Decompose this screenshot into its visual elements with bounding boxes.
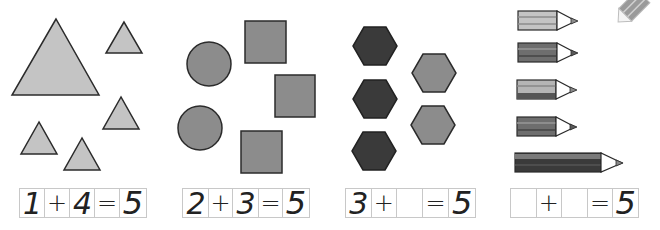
circle-shape xyxy=(187,42,231,86)
large-triangle xyxy=(12,19,99,95)
small-triangle xyxy=(21,122,57,154)
short-pencil xyxy=(517,117,577,136)
plus-cell: + xyxy=(537,189,563,217)
short-pencil xyxy=(518,11,578,30)
addend-b-cell[interactable]: 4 xyxy=(70,189,95,217)
result-cell: 5 xyxy=(449,189,475,217)
result-cell: 5 xyxy=(613,189,638,217)
pencils-panel: + = 5 xyxy=(490,0,660,230)
addend-b-cell[interactable]: 3 xyxy=(233,189,259,217)
small-triangle xyxy=(64,138,100,170)
equals-cell: = xyxy=(95,189,120,217)
circles-squares-panel: 2 + 3 = 5 xyxy=(170,0,330,230)
result-cell: 5 xyxy=(120,189,146,217)
addend-a-cell[interactable]: 1 xyxy=(20,189,45,217)
addend-a-cell[interactable]: 2 xyxy=(183,189,209,217)
square-shape xyxy=(241,131,282,173)
equation-row: + = 5 xyxy=(510,188,639,218)
equals-cell: = xyxy=(423,189,450,217)
dark-hexagon xyxy=(352,132,396,170)
equation-row: 1 + 4 = 5 xyxy=(19,188,147,218)
small-triangle xyxy=(106,22,142,53)
long-pencil xyxy=(515,153,623,172)
hexagons-panel: 3 + = 5 xyxy=(330,0,490,230)
dark-hexagon xyxy=(353,27,397,65)
square-shape xyxy=(245,21,286,63)
plus-cell: + xyxy=(372,189,398,217)
equals-cell: = xyxy=(259,189,283,217)
equation-row: 2 + 3 = 5 xyxy=(182,188,310,218)
equation-row: 3 + = 5 xyxy=(345,188,476,218)
light-hexagon xyxy=(411,106,455,144)
short-pencil xyxy=(518,43,578,62)
square-shape xyxy=(275,75,315,117)
addend-b-cell[interactable] xyxy=(562,189,588,217)
addend-b-cell[interactable] xyxy=(397,189,423,217)
short-pencil xyxy=(517,80,577,99)
circle-shape xyxy=(178,106,222,150)
plus-cell: + xyxy=(209,189,233,217)
addend-a-cell[interactable]: 3 xyxy=(346,189,372,217)
triangles-panel: 1 + 4 = 5 xyxy=(0,0,165,230)
addend-a-cell[interactable] xyxy=(511,189,537,217)
light-hexagon xyxy=(412,54,456,92)
result-cell: 5 xyxy=(283,189,309,217)
dark-hexagon xyxy=(353,80,397,118)
plus-cell: + xyxy=(45,189,70,217)
small-triangle xyxy=(103,97,139,129)
equals-cell: = xyxy=(588,189,614,217)
